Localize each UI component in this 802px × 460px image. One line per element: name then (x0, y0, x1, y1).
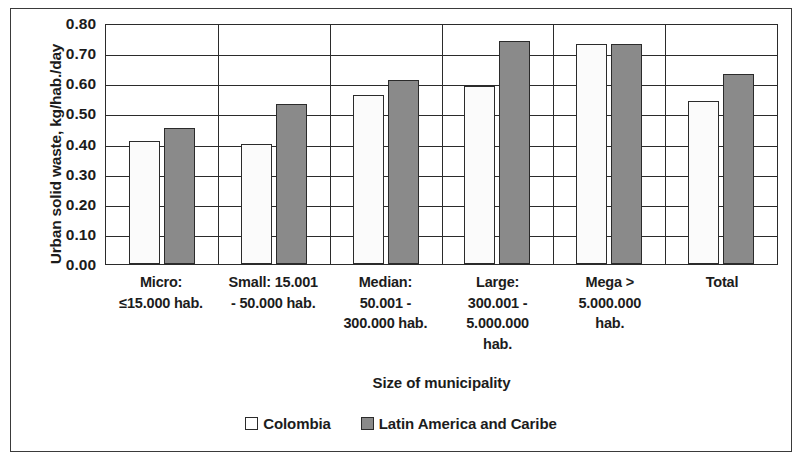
y-axis-tick-labels: 0.800.700.600.500.400.300.200.100.00 (44, 24, 100, 265)
bar-group (553, 25, 665, 264)
y-axis-tick-label: 0.50 (66, 105, 96, 123)
y-axis-tick-label: 0.20 (66, 196, 96, 214)
legend-label: Colombia (263, 415, 331, 432)
bar-group (330, 25, 442, 264)
hollow-square-swatch (245, 417, 258, 430)
filled-square-swatch (361, 417, 374, 430)
bar-group (218, 25, 330, 264)
bar-groups (106, 25, 777, 264)
bar[interactable] (464, 86, 495, 264)
bar-group (441, 25, 553, 264)
x-axis-category-labels: Micro:≤15.000 hab.Small: 15.001- 50.000 … (105, 272, 778, 354)
legend-item[interactable]: Colombia (245, 415, 331, 432)
bar[interactable] (164, 128, 195, 264)
bar-group (106, 25, 218, 264)
legend-item[interactable]: Latin America and Caribe (361, 415, 557, 432)
x-axis-category-label: Small: 15.001- 50.000 hab. (217, 272, 329, 354)
bar[interactable] (499, 41, 530, 264)
bar[interactable] (276, 104, 307, 264)
y-axis-tick-label: 0.10 (66, 226, 96, 244)
bar[interactable] (611, 44, 642, 264)
plot-area (105, 24, 778, 265)
chart-legend: ColombiaLatin America and Caribe (0, 415, 802, 432)
y-axis-tick-label: 0.00 (66, 256, 96, 274)
legend-label: Latin America and Caribe (379, 415, 557, 432)
x-axis-category-label: Total (666, 272, 778, 354)
chart-figure: Urban solid waste, kg/hab./day 0.800.700… (0, 0, 802, 460)
bar[interactable] (723, 74, 754, 264)
bar[interactable] (388, 80, 419, 264)
bar[interactable] (241, 144, 272, 265)
y-axis-tick-label: 0.40 (66, 136, 96, 154)
y-axis-tick-label: 0.80 (66, 15, 96, 33)
bar[interactable] (576, 44, 607, 264)
bar-group (665, 25, 777, 264)
y-axis-tick-label: 0.70 (66, 45, 96, 63)
y-axis-tick-label: 0.30 (66, 166, 96, 184)
x-axis-title: Size of municipality (105, 374, 778, 391)
x-axis-category-label: Large:300.001 -5.000.000hab. (442, 272, 554, 354)
x-axis-category-label: Median:50.001 -300.000 hab. (329, 272, 441, 354)
bar[interactable] (353, 95, 384, 264)
y-axis-tick-label: 0.60 (66, 75, 96, 93)
x-axis-category-label: Micro:≤15.000 hab. (105, 272, 217, 354)
bar[interactable] (688, 101, 719, 264)
bar[interactable] (129, 141, 160, 265)
x-axis-category-label: Mega >5.000.000hab. (554, 272, 666, 354)
